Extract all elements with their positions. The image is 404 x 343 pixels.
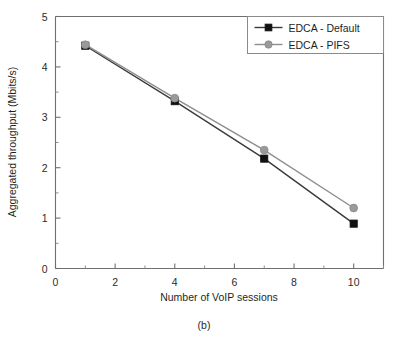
- y-tick-label: 1: [42, 212, 48, 224]
- x-tick-label: 2: [112, 276, 118, 288]
- data-point-marker: [81, 41, 89, 49]
- data-point-marker: [171, 94, 179, 102]
- series-line: [85, 45, 353, 208]
- legend-entry-label: EDCA - Default: [289, 22, 360, 34]
- y-tick-label: 5: [42, 11, 48, 23]
- x-tick-label: 4: [172, 276, 178, 288]
- x-tick-label: 6: [231, 276, 237, 288]
- data-point-marker: [261, 155, 268, 162]
- data-point-marker: [350, 220, 357, 227]
- x-tick-label: 8: [291, 276, 297, 288]
- y-tick-label: 2: [42, 162, 48, 174]
- series-line: [85, 46, 353, 224]
- data-point-marker: [260, 146, 268, 154]
- x-axis-title: Number of VoIP sessions: [160, 291, 278, 303]
- series-layer: [81, 41, 357, 227]
- legend-sample-marker: [265, 24, 272, 31]
- y-tick-label: 4: [42, 61, 48, 73]
- figure-container: 0246810012345 EDCA - DefaultEDCA - PIFS …: [0, 0, 404, 343]
- x-tick-label: 10: [348, 276, 360, 288]
- y-tick-label: 3: [42, 111, 48, 123]
- legend-sample-marker: [265, 41, 272, 48]
- figure-caption: (b): [198, 319, 211, 331]
- y-tick-label: 0: [42, 263, 48, 275]
- line-chart: 0246810012345 EDCA - DefaultEDCA - PIFS …: [0, 0, 404, 343]
- y-axis-title: Aggregated throughput (Mbits/s): [6, 67, 18, 218]
- data-point-marker: [350, 204, 358, 212]
- legend-layer[interactable]: EDCA - DefaultEDCA - PIFS: [248, 17, 384, 54]
- x-tick-label: 0: [53, 276, 59, 288]
- legend-entry-label: EDCA - PIFS: [289, 39, 350, 51]
